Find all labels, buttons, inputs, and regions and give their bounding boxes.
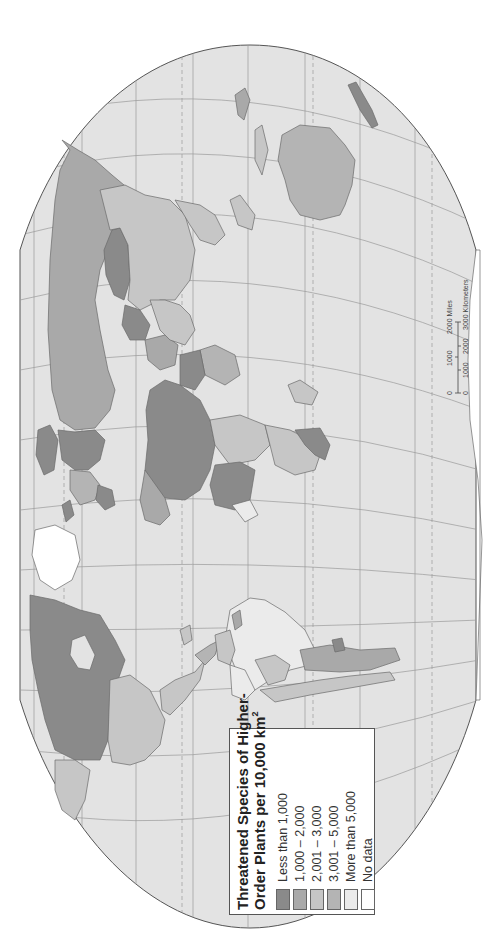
legend-swatch — [293, 889, 307, 910]
scale-miles-0: 0 — [446, 391, 453, 395]
legend-label: No data — [361, 838, 375, 882]
legend-item: 1,000 – 2,000 — [291, 735, 308, 910]
legend: Threatened Species of Higher- Order Plan… — [229, 728, 375, 915]
scale-km-3000: 3000 Kilometers — [462, 279, 469, 330]
legend-swatch — [344, 889, 358, 910]
legend-swatch — [361, 889, 375, 910]
legend-label: 2,001 – 3,000 — [310, 806, 324, 882]
legend-item: 2,001 – 3,000 — [308, 735, 325, 910]
legend-item: Less than 1,000 — [274, 735, 291, 910]
legend-swatch — [327, 889, 341, 910]
legend-label: 1,000 – 2,000 — [293, 806, 307, 882]
legend-title-line1: Threatened Species of Higher- — [234, 735, 251, 910]
legend-label: More than 5,000 — [344, 791, 358, 882]
scale-km-0: 0 — [462, 391, 469, 395]
legend-title: Threatened Species of Higher- Order Plan… — [234, 735, 268, 910]
scale-km-2000: 2000 — [462, 338, 469, 354]
legend-items: Less than 1,000 1,000 – 2,000 2,001 – 3,… — [274, 735, 376, 910]
legend-swatch — [310, 889, 324, 910]
legend-swatch — [276, 889, 290, 910]
legend-item: 3,001 – 5,000 — [325, 735, 342, 910]
legend-item: No data — [359, 735, 376, 910]
legend-item: More than 5,000 — [342, 735, 359, 910]
legend-title-line2: Order Plants per 10,000 km2 — [251, 735, 268, 910]
legend-label: Less than 1,000 — [276, 793, 290, 882]
scale-miles-1000: 1000 — [446, 350, 453, 366]
legend-label: 3,001 – 5,000 — [327, 806, 341, 882]
scale-miles-2000: 2000 Miles — [446, 300, 453, 334]
scale-km-1000: 1000 — [462, 362, 469, 378]
